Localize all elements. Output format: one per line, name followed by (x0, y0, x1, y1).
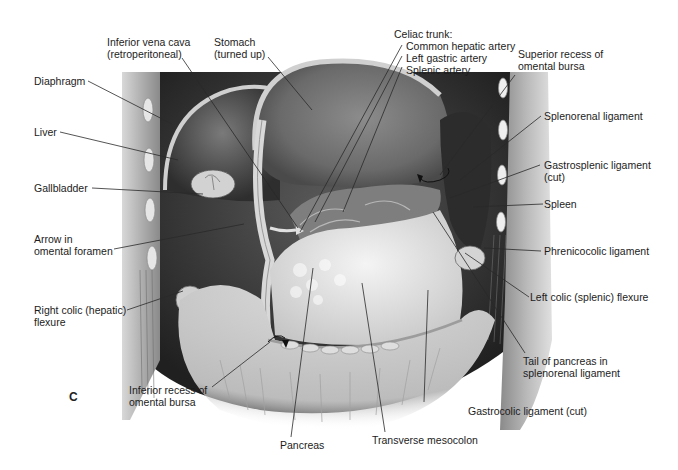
label-liver: Liver (34, 126, 57, 138)
label-gastrosplenic-ligament: Gastrosplenic ligament (cut) (544, 159, 651, 183)
label-arrow-omental-foramen: Arrow in omental foramen (34, 233, 113, 257)
label-left-colic-flexure: Left colic (splenic) flexure (530, 291, 648, 303)
label-right-colic-flexure: Right colic (hepatic) flexure (34, 304, 126, 328)
label-tail-of-pancreas: Tail of pancreas in splenorenal ligament (523, 355, 620, 379)
label-diaphragm: Diaphragm (34, 75, 85, 87)
label-stomach: Stomach (turned up) (214, 36, 265, 60)
label-inferior-recess: Inferior recess of omental bursa (129, 384, 207, 408)
label-spleen: Spleen (544, 198, 577, 210)
anatomy-figure: Inferior vena cava (retroperitoneal) Sto… (0, 0, 678, 470)
label-phrenicocolic-ligament: Phrenicocolic ligament (544, 245, 649, 257)
label-transverse-mesocolon: Transverse mesocolon (372, 434, 478, 446)
label-superior-recess: Superior recess of omental bursa (518, 48, 603, 72)
label-splenorenal-ligament: Splenorenal ligament (544, 110, 643, 122)
label-celiac-trunk: Celiac trunk: Common hepatic artery Left… (394, 28, 515, 76)
label-gastrocolic-ligament: Gastrocolic ligament (cut) (468, 405, 587, 417)
label-gallbladder: Gallbladder (34, 182, 88, 194)
panel-letter: C (69, 390, 78, 404)
label-inferior-vena-cava: Inferior vena cava (retroperitoneal) (107, 36, 190, 60)
label-pancreas: Pancreas (280, 439, 324, 451)
